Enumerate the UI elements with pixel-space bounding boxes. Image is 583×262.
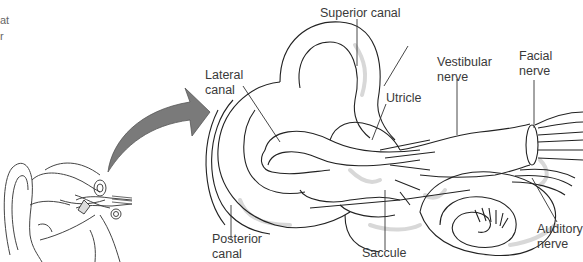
outer-ear-illustration (4, 163, 120, 262)
label-lateral-canal: Lateral canal (205, 68, 243, 98)
label-saccule: Saccule (362, 246, 406, 261)
label-utricle: Utricle (386, 91, 421, 106)
inset-inner-ear (76, 180, 132, 219)
curved-arrow-icon (108, 88, 210, 172)
inner-ear-diagram: at r (0, 0, 583, 262)
label-posterior-canal: Posterior canal (212, 232, 262, 262)
label-auditory-nerve: Auditory nerve (537, 222, 583, 252)
diagram-artwork (0, 0, 583, 262)
label-superior-canal: Superior canal (320, 6, 401, 21)
label-facial-nerve: Facial nerve (519, 49, 552, 79)
label-vestibular-nerve: Vestibular nerve (437, 55, 492, 85)
